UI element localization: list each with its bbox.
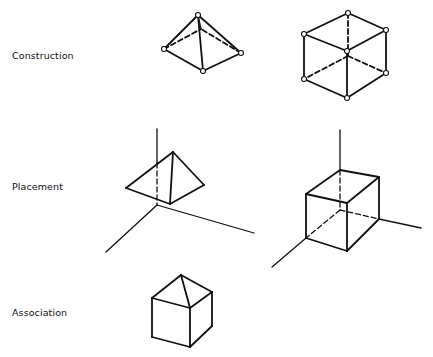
placement-pyramid [126, 152, 204, 204]
construction-cube-nodes [302, 11, 389, 101]
construction-pyramid [164, 15, 241, 71]
construction-cube [304, 13, 386, 98]
placement-axes-left [106, 129, 254, 252]
diagram-canvas [0, 0, 433, 357]
association-house [152, 275, 212, 347]
